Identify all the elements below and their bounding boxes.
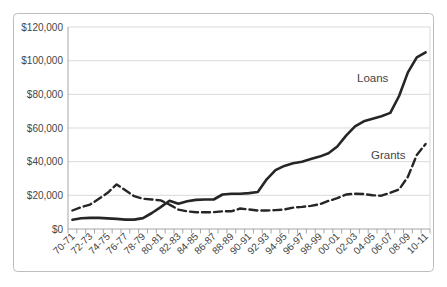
y-tick-label: $0: [52, 224, 64, 235]
chart-figure: $0$20,000$40,000$60,000$80,000$100,000$1…: [0, 0, 447, 287]
y-tick-label: $120,000: [21, 22, 63, 33]
y-tick-label: $80,000: [27, 89, 64, 100]
y-tick-label: $40,000: [27, 156, 64, 167]
grants-series-label: Grants: [371, 149, 406, 161]
loans-grants-line-chart: $0$20,000$40,000$60,000$80,000$100,000$1…: [0, 0, 447, 287]
y-tick-label: $20,000: [27, 190, 64, 201]
y-tick-label: $60,000: [27, 123, 64, 134]
loans-series-label: Loans: [357, 72, 389, 84]
y-tick-label: $100,000: [21, 55, 63, 66]
